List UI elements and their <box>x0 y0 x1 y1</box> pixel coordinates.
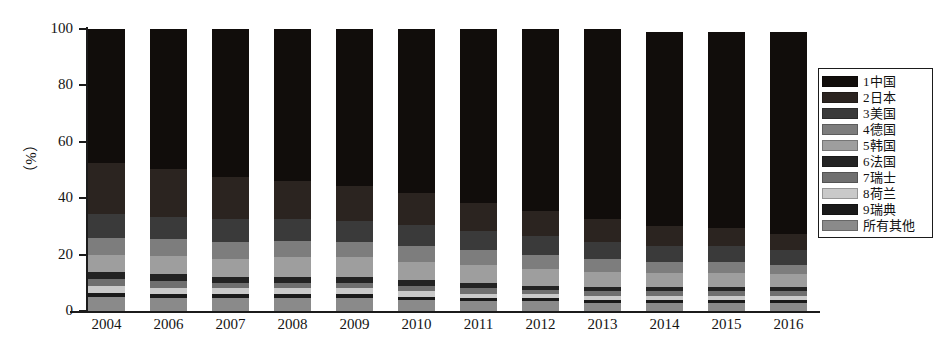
bar-segment <box>150 274 187 281</box>
bar-segment <box>770 234 807 251</box>
legend-swatch <box>822 92 858 103</box>
bar-segment <box>274 298 311 311</box>
y-tick-label: 20 <box>33 247 73 262</box>
y-tick-mark <box>79 197 86 199</box>
bar-segment <box>584 272 621 288</box>
legend-swatch <box>822 172 858 183</box>
bar-2008 <box>274 29 311 311</box>
bar-segment <box>88 214 125 238</box>
x-tick-label: 2007 <box>201 316 261 333</box>
bar-segment <box>150 281 187 288</box>
bar-segment <box>522 301 559 311</box>
bar-segment <box>212 242 249 259</box>
bar-segment <box>150 217 187 240</box>
bar-segment <box>646 226 683 246</box>
bar-segment <box>522 211 559 236</box>
legend-item-9[interactable]: 9瑞典 <box>822 201 929 217</box>
bar-2006 <box>150 29 187 311</box>
bar-segment <box>770 274 807 287</box>
bar-segment <box>646 246 683 262</box>
bar-segment <box>708 246 745 262</box>
x-tick-label: 2011 <box>449 316 509 333</box>
bar-segment <box>150 169 187 217</box>
bar-segment <box>336 298 373 311</box>
bar-2014 <box>646 32 683 311</box>
legend-item-3[interactable]: 3美国 <box>822 105 929 121</box>
legend-item-7[interactable]: 7瑞士 <box>822 169 929 185</box>
bar-segment <box>708 262 745 273</box>
bar-segment <box>646 262 683 273</box>
legend-item-6[interactable]: 6法国 <box>822 153 929 169</box>
bar-segment <box>88 286 125 293</box>
legend-swatch <box>822 108 858 119</box>
bar-segment <box>398 29 435 193</box>
y-tick-label: 0 <box>33 303 73 318</box>
bar-segment <box>150 256 187 274</box>
bar-segment <box>398 246 435 262</box>
bar-segment <box>460 265 497 283</box>
x-tick-label: 2015 <box>697 316 757 333</box>
bar-segment <box>274 241 311 258</box>
bar-segment <box>150 239 187 256</box>
bar-segment <box>460 203 497 231</box>
bar-segment <box>708 273 745 287</box>
bar-segment <box>398 225 435 246</box>
y-tick-label: 80 <box>33 77 73 92</box>
legend-label: 2日本 <box>863 91 896 104</box>
y-tick-label: 100 <box>33 21 73 36</box>
bar-segment <box>212 29 249 177</box>
legend-swatch <box>822 140 858 151</box>
bar-2011 <box>460 29 497 311</box>
bar-segment <box>708 303 745 311</box>
bar-segment <box>274 29 311 181</box>
bar-segment <box>584 29 621 219</box>
legend-label: 6法国 <box>863 155 896 168</box>
legend-label: 4德国 <box>863 123 896 136</box>
bar-2013 <box>584 29 621 311</box>
y-tick-mark <box>79 254 86 256</box>
bar-segment <box>88 279 125 286</box>
legend-item-5[interactable]: 5韩国 <box>822 137 929 153</box>
plot-area <box>88 29 808 311</box>
chart-root: （%） 020406080100 20042006200720082009201… <box>0 0 941 352</box>
x-tick-label: 2013 <box>573 316 633 333</box>
y-tick-label: 40 <box>33 190 73 205</box>
bar-segment <box>646 32 683 227</box>
legend-item-4[interactable]: 4德国 <box>822 121 929 137</box>
bar-segment <box>88 163 125 214</box>
legend-swatch <box>822 204 858 215</box>
chart-legend: 1中国2日本3美国4德国5韩国6法国7瑞士8荷兰9瑞典所有其他 <box>818 68 933 238</box>
legend-label: 8荷兰 <box>863 187 896 200</box>
bar-segment <box>460 250 497 264</box>
y-tick-mark <box>79 141 86 143</box>
legend-item-2[interactable]: 2日本 <box>822 89 929 105</box>
legend-label: 3美国 <box>863 107 896 120</box>
y-tick-mark <box>79 84 86 86</box>
bar-segment <box>212 177 249 219</box>
bar-segment <box>88 272 125 279</box>
bar-segment <box>522 29 559 211</box>
bar-segment <box>212 298 249 311</box>
legend-item-1[interactable]: 1中国 <box>822 73 929 89</box>
x-tick-label: 2014 <box>635 316 695 333</box>
bar-segment <box>646 303 683 311</box>
bar-segment <box>584 219 621 242</box>
legend-swatch <box>822 156 858 167</box>
bar-segment <box>336 242 373 258</box>
legend-item-8[interactable]: 8荷兰 <box>822 185 929 201</box>
x-tick-label: 2012 <box>511 316 571 333</box>
legend-item-10[interactable]: 所有其他 <box>822 217 929 233</box>
bar-segment <box>460 301 497 311</box>
y-tick-mark <box>79 310 86 312</box>
bar-segment <box>336 29 373 186</box>
bar-segment <box>646 273 683 287</box>
bar-segment <box>88 238 125 255</box>
legend-label: 所有其他 <box>863 219 915 232</box>
legend-label: 1中国 <box>863 75 896 88</box>
legend-swatch <box>822 76 858 87</box>
bar-segment <box>770 303 807 311</box>
bar-segment <box>522 269 559 286</box>
bar-segment <box>398 300 435 311</box>
bar-segment <box>522 236 559 254</box>
bar-segment <box>274 257 311 277</box>
